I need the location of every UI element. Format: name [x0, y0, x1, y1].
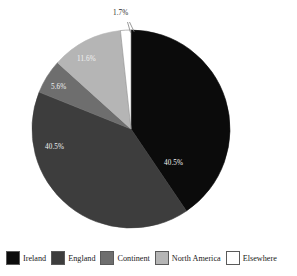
legend-swatch-england [51, 251, 65, 265]
pie-chart-figure: 40.5% 40.5% 5.6% 11.6% 1.7% IrelandEngla… [0, 0, 297, 276]
chart-legend: IrelandEnglandContinentNorth AmericaElse… [0, 246, 297, 270]
legend-label-ireland: Ireland [23, 254, 46, 263]
legend-swatch-continent [100, 251, 114, 265]
legend-label-continent: Continent [117, 254, 149, 263]
legend-item-elsewhere[interactable]: Elsewhere [226, 251, 277, 265]
legend-item-ireland[interactable]: Ireland [6, 251, 46, 265]
legend-swatch-ireland [6, 251, 20, 265]
legend-label-north-america: North America [172, 254, 221, 263]
legend-item-continent[interactable]: Continent [100, 251, 149, 265]
legend-label-england: England [68, 254, 95, 263]
pie-slices-group [32, 30, 230, 228]
legend-label-elsewhere: Elsewhere [243, 254, 277, 263]
legend-swatch-elsewhere [226, 251, 240, 265]
legend-swatch-north-america [155, 251, 169, 265]
legend-item-england[interactable]: England [51, 251, 95, 265]
legend-item-north-america[interactable]: North America [155, 251, 221, 265]
pie-chart-plot-area: 40.5% 40.5% 5.6% 11.6% 1.7% [0, 0, 297, 240]
pie-chart-svg [0, 0, 297, 240]
